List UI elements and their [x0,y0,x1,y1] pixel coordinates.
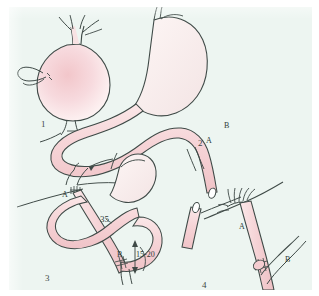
label-a-panel-2: A [206,136,212,145]
pylorus-left-p1 [61,120,67,135]
illustration-canvas: 1 2 3 4 A B A B 35 15-20 A B [9,7,312,290]
measurement-15-20-panel-3: 15-20 [136,250,155,259]
duodenum-sweep-left-p1 [40,133,61,142]
stomach-body-p1 [37,44,110,121]
fragment-line-a-p4 [187,149,196,171]
figure-plate: 1 2 3 4 A B A B 35 15-20 A B [0,0,319,296]
label-b-panel-4: B [285,255,290,264]
label-b-panel-2: B [224,121,229,130]
panel-number-4: 4 [202,280,207,290]
efferent-tail-p3 [121,271,123,285]
mesocolon-line2-p3 [77,183,119,185]
measure-1520-arrowhead-up-p3 [132,240,138,247]
panel-1-artwork [18,15,110,142]
measurement-35-panel-3: 35 [100,214,109,224]
illustration-artwork [9,7,312,290]
label-b-panel-3: B [117,250,122,259]
panel-number-3: 3 [45,273,50,283]
roux-limb-p4 [240,201,274,290]
stomach-body-p2 [135,17,207,116]
label-a-panel-3: A [62,190,68,199]
vessel-branch-left-p1 [59,17,71,30]
label-a-panel-4: A [239,222,245,231]
esophagus-wall-p1 [81,26,84,44]
panel-number-2: 2 [198,138,203,148]
vessel-branch-far-right-p1 [85,29,102,35]
esophagus-p2 [154,7,157,20]
oblique-structure-lower-p4 [201,197,241,213]
distal-segment-p2 [182,207,201,249]
panel-number-1: 1 [41,119,46,129]
vessel-branch-right-p1 [83,20,99,32]
